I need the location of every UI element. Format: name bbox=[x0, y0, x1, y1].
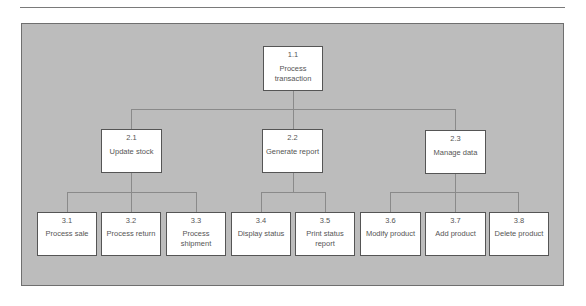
connector-to-3-6 bbox=[390, 192, 391, 212]
connector-to-2-1 bbox=[131, 109, 132, 129]
node-number: 2.1 bbox=[102, 133, 161, 143]
connector-2-2-bus bbox=[261, 192, 326, 193]
connector-2-1-bus bbox=[67, 192, 197, 193]
connector-to-2-2 bbox=[293, 109, 294, 129]
connector-2-3-down bbox=[455, 173, 456, 192]
connector-to-3-4 bbox=[261, 192, 262, 212]
node-label: Modify product bbox=[361, 229, 420, 239]
node-label: Generate report bbox=[263, 147, 322, 157]
node-number: 3.8 bbox=[490, 216, 548, 226]
node-number: 1.1 bbox=[264, 50, 322, 60]
node-label: Display status bbox=[232, 229, 290, 239]
node-number: 3.7 bbox=[426, 216, 485, 226]
connector-to-3-8 bbox=[518, 192, 519, 212]
node-2-3: 2.3 Manage data bbox=[425, 130, 486, 174]
node-number: 3.1 bbox=[38, 216, 96, 226]
connector-root-down bbox=[293, 90, 294, 109]
node-3-6: 3.6 Modify product bbox=[360, 212, 421, 256]
top-rule bbox=[20, 7, 565, 8]
connector-to-3-2 bbox=[131, 192, 132, 212]
connector-to-3-7 bbox=[455, 192, 456, 212]
node-2-1: 2.1 Update stock bbox=[101, 129, 162, 173]
node-3-1: 3.1 Process sale bbox=[37, 212, 97, 256]
node-2-2: 2.2 Generate report bbox=[262, 129, 323, 173]
connector-2-1-down bbox=[131, 172, 132, 192]
node-3-2: 3.2 Process return bbox=[101, 212, 161, 256]
node-number: 2.2 bbox=[263, 133, 322, 143]
node-label: Delete product bbox=[490, 229, 548, 239]
node-label: Process transaction bbox=[264, 64, 322, 84]
node-label: Add product bbox=[426, 229, 485, 239]
node-number: 3.5 bbox=[296, 216, 354, 226]
connector-to-3-5 bbox=[325, 192, 326, 212]
node-1-1: 1.1 Process transaction bbox=[263, 46, 323, 91]
node-label: Process shipment bbox=[167, 229, 225, 249]
node-3-5: 3.5 Print status report bbox=[295, 212, 355, 256]
node-label: Print status report bbox=[296, 229, 354, 249]
node-label: Update stock bbox=[102, 147, 161, 157]
node-number: 2.3 bbox=[426, 134, 485, 144]
connector-to-3-3 bbox=[196, 192, 197, 212]
node-3-8: 3.8 Delete product bbox=[489, 212, 549, 256]
node-3-7: 3.7 Add product bbox=[425, 212, 486, 256]
node-label: Process sale bbox=[38, 229, 96, 239]
node-label: Manage data bbox=[426, 148, 485, 158]
node-3-3: 3.3 Process shipment bbox=[166, 212, 226, 256]
node-number: 3.3 bbox=[167, 216, 225, 226]
node-number: 3.6 bbox=[361, 216, 420, 226]
node-number: 3.2 bbox=[102, 216, 160, 226]
node-3-4: 3.4 Display status bbox=[231, 212, 291, 256]
connector-to-3-1 bbox=[67, 192, 68, 212]
node-label: Process return bbox=[102, 229, 160, 239]
connector-2-2-down bbox=[293, 172, 294, 192]
node-number: 3.4 bbox=[232, 216, 290, 226]
connector-to-2-3 bbox=[455, 109, 456, 130]
